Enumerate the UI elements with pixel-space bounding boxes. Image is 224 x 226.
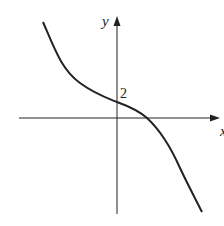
y-axis-label: y <box>100 13 109 29</box>
function-curve <box>43 22 202 212</box>
y-axis-arrow-icon <box>114 16 121 26</box>
function-graph: x y 2 <box>0 0 224 226</box>
y-axis <box>114 16 121 214</box>
y-intercept-label: 2 <box>120 86 127 101</box>
x-axis <box>19 115 220 122</box>
x-axis-arrow-icon <box>210 115 220 122</box>
x-axis-label: x <box>219 123 224 139</box>
